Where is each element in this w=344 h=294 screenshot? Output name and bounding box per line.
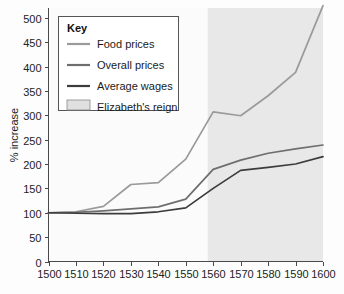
x-tick-label: 1570: [229, 268, 253, 280]
legend-title: Key: [67, 22, 88, 34]
y-tick-label: 350: [23, 86, 41, 98]
y-tick-label: 500: [23, 13, 41, 25]
legend-area-swatch: [67, 100, 90, 110]
y-tick-label: 250: [23, 135, 41, 147]
x-tick-label: 1540: [146, 268, 170, 280]
legend: Key Food pricesOverall pricesAverage wag…: [59, 17, 179, 114]
x-tick-label: 1550: [174, 268, 198, 280]
line-chart: 050100150200250300350400450500 150015101…: [0, 0, 344, 294]
y-tick-label: 450: [23, 37, 41, 49]
y-tick-label: 300: [23, 110, 41, 122]
y-axis-title: % increase: [8, 108, 20, 162]
x-tick-label: 1500: [37, 268, 61, 280]
y-tick-label: 100: [23, 208, 41, 220]
y-tick-label: 400: [23, 62, 41, 74]
x-tick-label: 1580: [256, 268, 280, 280]
legend-item-label: Elizabeth's reign: [97, 101, 177, 113]
x-tick-label: 1520: [91, 268, 115, 280]
x-axis-ticks: 1500151015201530154015501560157015801590…: [37, 262, 335, 280]
x-tick-label: 1590: [284, 268, 308, 280]
x-tick-label: 1560: [201, 268, 225, 280]
legend-item-label: Food prices: [97, 38, 155, 50]
y-tick-label: 200: [23, 159, 41, 171]
chart-container: 050100150200250300350400450500 150015101…: [0, 0, 344, 294]
x-tick-label: 1600: [311, 268, 335, 280]
legend-item-label: Overall prices: [97, 59, 165, 71]
y-axis-ticks: 050100150200250300350400450500: [23, 13, 48, 269]
y-tick-label: 150: [23, 183, 41, 195]
y-tick-label: 50: [29, 232, 41, 244]
legend-item-label: Average wages: [97, 80, 173, 92]
x-tick-label: 1530: [119, 268, 143, 280]
x-tick-label: 1510: [64, 268, 88, 280]
